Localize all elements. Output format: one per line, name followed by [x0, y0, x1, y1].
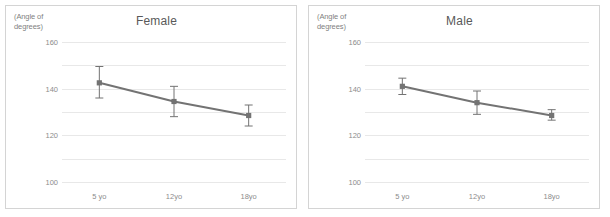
x-axis-tick-label: 18yo — [544, 192, 560, 201]
y-axis-tick-label: 120 — [348, 131, 361, 140]
x-axis-tick-label: 18yo — [241, 192, 257, 201]
y-axis-tick-label: 100 — [45, 178, 58, 187]
data-series — [62, 42, 286, 182]
y-axis-tick-label: 120 — [45, 131, 58, 140]
chart-female: (Angle of degrees) Female 16014012010080… — [0, 0, 305, 217]
data-point-marker — [246, 113, 251, 118]
y-axis-tick-label: 100 — [348, 178, 361, 187]
y-axis-tick-label: 160 — [348, 38, 361, 47]
chart-male: (Angle of degrees) Male 1601401201008060… — [305, 0, 610, 217]
data-point-marker — [549, 113, 554, 118]
data-series — [365, 42, 589, 182]
x-axis-tick-label: 5 yo — [92, 192, 106, 201]
plot-area-female: 1601401201008060405 yo12yo18yo — [62, 42, 286, 182]
gridline: 40 — [62, 182, 286, 183]
chart-panel-female: (Angle of degrees) Female 16014012010080… — [0, 0, 305, 217]
y-axis-tick-label: 160 — [45, 38, 58, 47]
x-axis-tick-label: 5 yo — [395, 192, 409, 201]
data-point-marker — [474, 100, 479, 105]
data-point-marker — [97, 80, 102, 85]
chart-panel-male: (Angle of degrees) Male 1601401201008060… — [305, 0, 610, 217]
figure-container: (Angle of degrees) Female 16014012010080… — [0, 0, 610, 217]
plot-area-male: 1601401201008060405 yo12yo18yo — [365, 42, 589, 182]
data-point-marker — [171, 99, 176, 104]
gridline: 40 — [365, 182, 589, 183]
x-axis-tick-label: 12yo — [166, 192, 182, 201]
y-axis-tick-label: 140 — [45, 84, 58, 93]
x-axis-tick-label: 12yo — [469, 192, 485, 201]
data-point-marker — [400, 84, 405, 89]
chart-title-male: Male — [305, 14, 610, 28]
chart-title-female: Female — [0, 14, 309, 28]
y-axis-tick-label: 140 — [348, 84, 361, 93]
